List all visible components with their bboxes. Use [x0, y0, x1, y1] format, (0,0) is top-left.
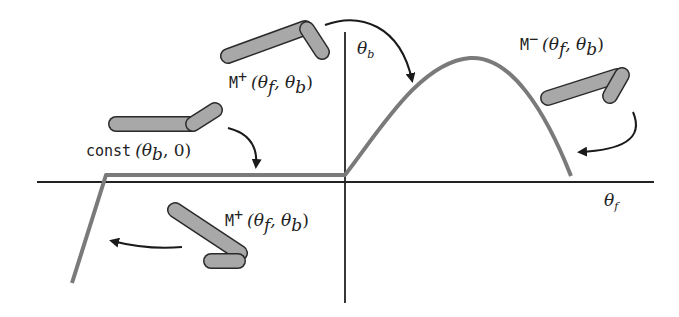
limb-icon-const: [116, 110, 215, 124]
label-m-minus: M− (θf, θb): [520, 30, 604, 59]
piecewise-curve: [72, 58, 571, 283]
limb-icon-m-minus: [548, 75, 622, 98]
y-axis-label: θb: [357, 38, 374, 61]
label-m-plus-top: M+ (θf, θb): [229, 68, 313, 97]
label-const: const (θb, 0): [86, 140, 191, 164]
limb-icon-m-plus-top: [228, 28, 322, 56]
x-axis-label: θf: [604, 190, 618, 213]
label-m-plus-bottom: M+ (θf, θb): [225, 206, 309, 235]
arrow-icon-m-minus: [580, 112, 636, 152]
arrow-icon-m-plus-bottom: [112, 241, 182, 248]
arrow-icon-const: [228, 128, 256, 166]
